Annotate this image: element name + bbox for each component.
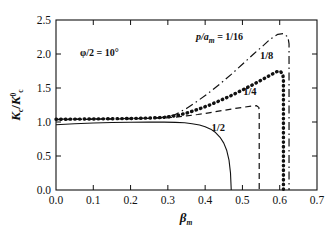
- ratio-annotation-prefix: p/a: [195, 31, 209, 42]
- x-tick-label: 0.3: [161, 194, 176, 206]
- figure-container: 0.00.10.20.30.40.50.60.70.00.51.01.52.02…: [0, 0, 334, 232]
- curve-label-1-4: 1/4: [243, 86, 257, 97]
- x-tick-label: 0.7: [310, 194, 325, 206]
- y-tick-label: 2.5: [37, 14, 52, 26]
- y-tick-label: 0.0: [37, 184, 52, 196]
- x-tick-label: 0.2: [123, 194, 138, 206]
- x-tick-label: 0.4: [198, 194, 213, 206]
- y-tick-label: 1.5: [37, 82, 52, 94]
- phi-annotation: φ/2 = 10°: [80, 47, 119, 58]
- y-tick-label: 2.0: [37, 48, 52, 60]
- x-tick-label: 0.6: [273, 194, 288, 206]
- x-tick-label: 0.0: [49, 194, 64, 206]
- curve-label-1-8: 1/8: [260, 50, 273, 61]
- x-axis-label: βm: [179, 210, 193, 227]
- x-tick-label: 0.5: [235, 194, 250, 206]
- y-tick-label: 1.0: [37, 116, 52, 128]
- plot-area-background: [56, 20, 317, 190]
- ratio-annotation-suffix: = 1/16: [215, 31, 243, 42]
- y-axis-label: Kc/K0c: [8, 89, 25, 122]
- curve-label-1-2: 1/2: [211, 122, 224, 133]
- x-axis-label-sub: m: [186, 218, 192, 227]
- y-tick-label: 0.5: [37, 150, 52, 162]
- x-tick-label: 0.1: [86, 194, 101, 206]
- y-axis-label-sub2: c: [16, 89, 25, 93]
- chart-canvas: 0.00.10.20.30.40.50.60.70.00.51.01.52.02…: [0, 0, 334, 232]
